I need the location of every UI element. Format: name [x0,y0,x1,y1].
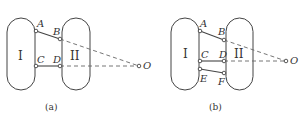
label-b: B [52,26,60,37]
point-o [284,59,288,63]
label-link-1: I [183,47,188,61]
joint-e [198,67,202,71]
joint-a [34,29,38,33]
panel-b: A B C D E F O I II (b) [171,18,298,112]
diagram-canvas: A B C D O I II (a) A B C D E F O I II (b… [0,0,308,124]
label-a: A [36,18,44,29]
label-link-1: I [18,49,23,63]
label-b: B [217,26,225,37]
joint-b [222,38,226,42]
label-c: C [201,49,209,60]
joint-a [198,29,202,33]
label-a: A [199,18,207,29]
panel-a: A B C D O I II (a) [7,18,151,112]
caption-b: (b) [209,102,222,112]
label-d: D [52,54,61,65]
point-o [137,64,141,68]
label-c: C [37,54,45,65]
label-o: O [290,55,298,66]
label-link-2: II [70,49,80,63]
joint-b [58,37,62,41]
label-f: F [217,76,226,87]
joint-f [222,71,226,75]
label-o: O [143,60,151,71]
caption-a: (a) [45,102,57,112]
label-e: E [199,73,208,84]
label-d: D [218,49,227,60]
label-link-2: II [234,47,244,61]
